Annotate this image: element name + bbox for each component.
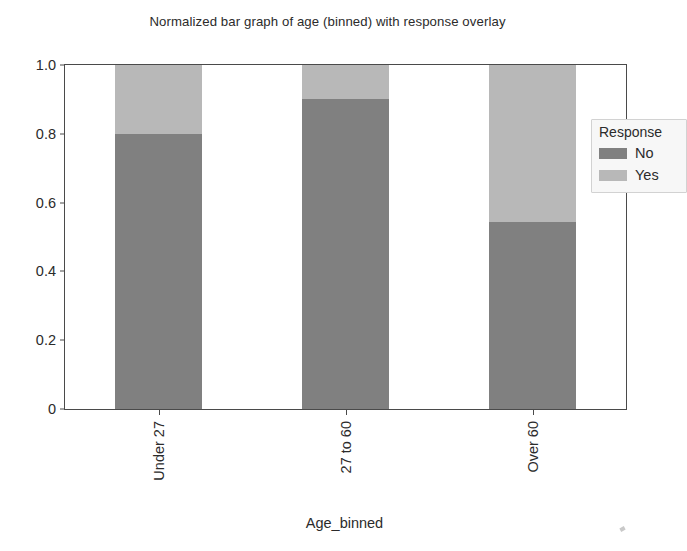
chart-title: Normalized bar graph of age (binned) wit…: [0, 14, 655, 30]
x-axis-title: Age_binned: [64, 515, 625, 532]
y-axis-tick-label: 1.0: [5, 58, 65, 73]
bar-stack[interactable]: [489, 65, 576, 409]
legend-swatch-no: [599, 148, 627, 159]
bar-stack[interactable]: [302, 65, 389, 409]
y-axis-tick-mark: [60, 202, 65, 203]
legend-title: Response: [599, 124, 662, 141]
chart-legend: Response No Yes: [591, 119, 687, 193]
y-axis-tick-label: 0.4: [5, 264, 65, 279]
plot-area: Response No Yes 00.20.40.60.81.0Under 27…: [64, 64, 627, 410]
y-axis-tick-label: 0.2: [5, 333, 65, 348]
legend-label-yes: Yes: [635, 167, 659, 184]
x-axis-tick-label: Over 60: [526, 421, 541, 473]
y-axis-tick-mark: [60, 271, 65, 272]
bar-segment-yes[interactable]: [302, 65, 389, 99]
x-axis-tick-mark: [346, 409, 347, 415]
bar-segment-yes[interactable]: [115, 65, 202, 134]
bar-segment-yes[interactable]: [489, 65, 576, 222]
y-axis-tick-mark: [60, 133, 65, 134]
y-axis-tick-label: 0: [5, 402, 65, 417]
y-axis-tick-label: 0.6: [5, 195, 65, 210]
y-axis-tick-mark: [60, 65, 65, 66]
y-axis-tick-mark: [60, 409, 65, 410]
y-axis-tick-label: 0.8: [5, 127, 65, 142]
y-axis-tick-mark: [60, 340, 65, 341]
bar-stack[interactable]: [115, 65, 202, 409]
x-axis-tick-label: Under 27: [152, 421, 167, 481]
bar-segment-no[interactable]: [489, 222, 576, 409]
legend-label-no: No: [635, 145, 654, 162]
bar-segment-no[interactable]: [302, 99, 389, 409]
x-axis-tick-mark: [159, 409, 160, 415]
x-axis-tick-mark: [533, 409, 534, 415]
bar-segment-no[interactable]: [115, 134, 202, 409]
x-axis-tick-label: 27 to 60: [339, 421, 354, 473]
legend-swatch-yes: [599, 170, 627, 181]
